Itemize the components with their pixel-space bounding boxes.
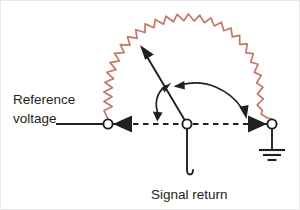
circuit-diagram: Reference voltage Signal return: [1, 1, 300, 210]
reference-voltage-label-line2: voltage: [13, 111, 57, 126]
terminal-node-icon-ground[interactable]: [267, 119, 276, 128]
zigzag-resistor-icon: [104, 14, 272, 119]
angle-arc-right: [174, 81, 249, 119]
arrowhead-icon-right: [248, 116, 267, 133]
signal-return-lead: [187, 129, 193, 175]
terminal-node-icon-signal-return[interactable]: [182, 119, 191, 128]
earth-ground-icon: [259, 129, 285, 160]
arrowhead-icon-left: [113, 116, 132, 133]
angle-arc-left: [153, 83, 171, 122]
terminal-node-icon-reference[interactable]: [103, 119, 112, 128]
diagram-canvas: Reference voltage Signal return: [0, 0, 300, 210]
reference-voltage-label-line1: Reference: [13, 92, 75, 107]
signal-return-label: Signal return: [151, 187, 228, 202]
